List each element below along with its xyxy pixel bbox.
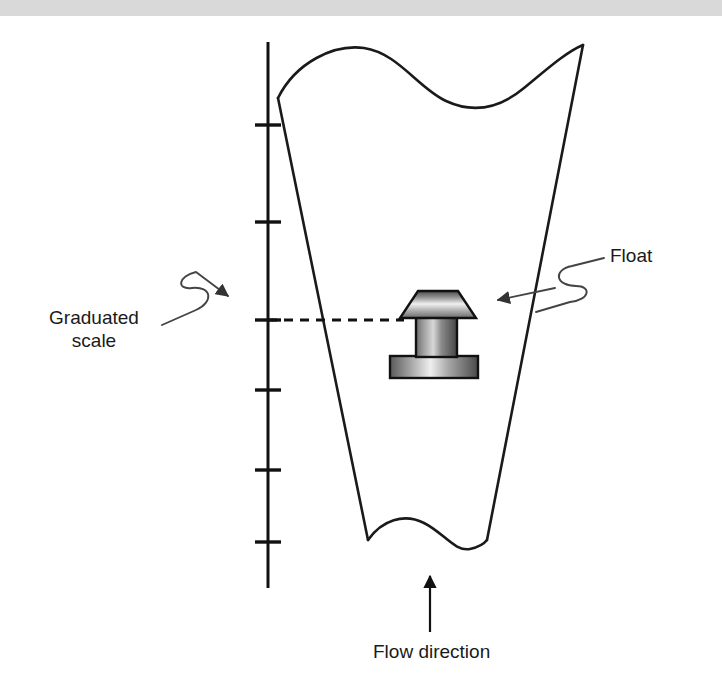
rotameter-diagram: Graduated scale Float Flow direction xyxy=(0,0,722,690)
float-cone xyxy=(400,291,476,318)
flow-direction-label: Flow direction xyxy=(373,640,490,663)
float-body xyxy=(390,291,478,378)
top-band-rect xyxy=(0,0,722,16)
tube-bottom-break-line xyxy=(368,518,487,549)
graduated-scale xyxy=(255,42,281,588)
graduated-scale-label: Graduated scale xyxy=(14,306,174,352)
tube-top-break-line xyxy=(278,45,583,108)
float-label: Float xyxy=(610,244,652,267)
graduated-scale-label-line2: scale xyxy=(14,329,174,352)
float-leader xyxy=(498,258,604,312)
graduated-scale-label-line1: Graduated xyxy=(49,307,139,328)
float-base xyxy=(390,356,478,378)
float-stem xyxy=(416,317,457,357)
